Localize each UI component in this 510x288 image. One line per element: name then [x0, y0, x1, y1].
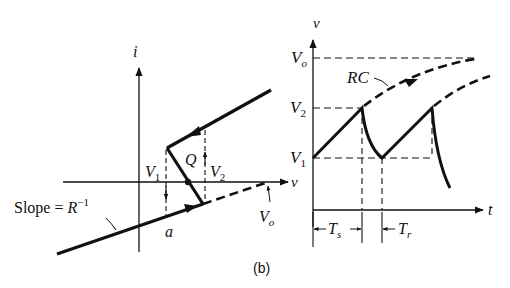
v1-level-label: V1	[290, 148, 306, 169]
ts-label: Ts	[328, 220, 341, 240]
right-v-axis-label: v	[313, 15, 320, 31]
v1-label: V1	[145, 163, 160, 183]
vo-leader-line	[268, 186, 270, 202]
rc-curve-1-arrow-icon	[404, 79, 418, 87]
rc-curve-2	[434, 76, 490, 106]
left-graph: i v V1 Q V2 Vo a Slope = R−1	[14, 43, 298, 254]
rc-curve-1	[364, 59, 475, 106]
operating-point-q-dot	[185, 179, 191, 185]
rc-leader-line	[374, 78, 388, 86]
point-a-label: a	[165, 223, 173, 240]
load-line-extension	[203, 182, 268, 204]
figure: i v V1 Q V2 Vo a Slope = R−1 v t	[0, 0, 510, 288]
slope-label: Slope = R−1	[14, 196, 89, 217]
slope-leader-line	[106, 218, 116, 230]
upper-branch	[167, 90, 271, 148]
vo-level-label: Vo	[291, 48, 307, 69]
upper-branch-arrow-icon	[186, 126, 201, 137]
t-axis-label: t	[488, 201, 493, 218]
vo-label: Vo	[259, 208, 275, 228]
i-axis-label: i	[133, 43, 137, 60]
right-graph: v t Vo V2 V1 RC Ts Tr	[290, 15, 493, 247]
q-label: Q	[185, 151, 197, 168]
v-axis-label: v	[291, 174, 298, 190]
sawtooth-waveform	[313, 108, 450, 188]
tr-label: Tr	[398, 220, 412, 240]
lower-branch	[57, 204, 203, 254]
v2-level-label: V2	[290, 98, 306, 119]
figure-caption: (b)	[253, 260, 270, 276]
rc-label: RC	[346, 68, 369, 87]
v2-label: V2	[210, 163, 225, 183]
